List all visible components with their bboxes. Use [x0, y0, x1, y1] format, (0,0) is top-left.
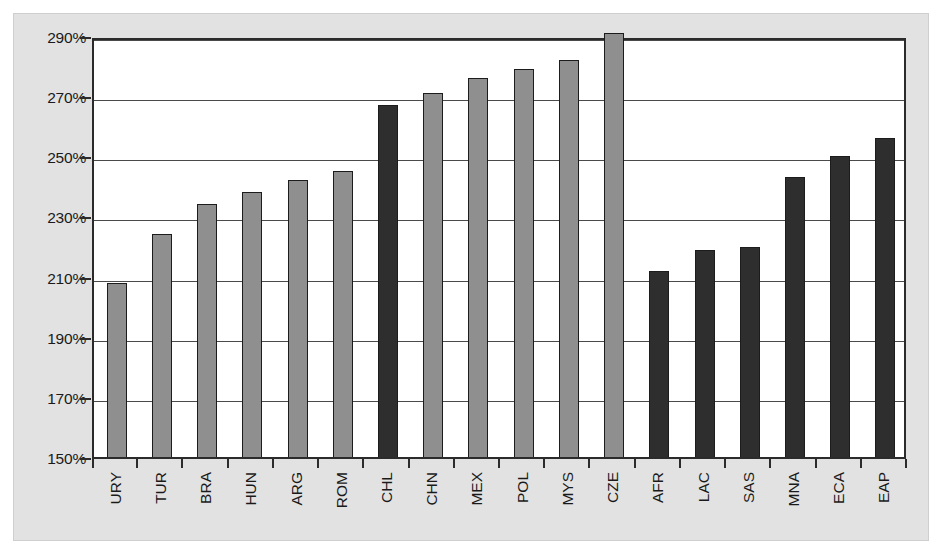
bar-arg: [288, 180, 308, 457]
bar-eap: [875, 138, 895, 457]
bar-mys: [559, 60, 579, 457]
bar-mex: [468, 78, 488, 457]
bar-bra: [197, 204, 217, 457]
y-tick-label: 150%: [24, 450, 86, 468]
y-tick-label: 170%: [24, 390, 86, 408]
bar-cze: [604, 33, 624, 457]
bar-eca: [830, 156, 850, 457]
x-tick-mark: [860, 459, 862, 468]
x-tick-mark: [453, 459, 455, 468]
bar-sas: [740, 247, 760, 458]
bar-chn: [423, 93, 443, 457]
y-tick-mark: [80, 398, 91, 400]
bar-ury: [107, 283, 127, 457]
x-tick-label: ROM: [333, 472, 351, 508]
x-tick-label: AFR: [649, 472, 667, 503]
x-tick-mark: [724, 459, 726, 468]
x-tick-label: ECA: [830, 472, 848, 504]
x-tick-mark: [181, 459, 183, 468]
x-tick-label: HUN: [242, 472, 260, 506]
x-tick-mark: [498, 459, 500, 468]
y-tick-mark: [80, 97, 91, 99]
x-tick-mark: [272, 459, 274, 468]
x-tick-mark: [136, 459, 138, 468]
x-tick-label: BRA: [197, 472, 215, 504]
bar-hun: [242, 192, 262, 457]
bar-tur: [152, 234, 172, 457]
bar-mna: [785, 177, 805, 457]
x-tick-label: MNA: [785, 472, 803, 506]
x-tick-mark: [634, 459, 636, 468]
y-tick-mark: [80, 157, 91, 159]
x-tick-mark: [905, 459, 907, 468]
y-tick-label: 290%: [24, 29, 86, 47]
bar-series: [94, 40, 904, 457]
x-tick-mark: [769, 459, 771, 468]
x-tick-label: URY: [107, 472, 125, 504]
x-tick-mark: [679, 459, 681, 468]
x-tick-mark: [317, 459, 319, 468]
y-tick-mark: [80, 278, 91, 280]
x-tick-label: CHN: [423, 472, 441, 506]
chart-figure: 150%170%190%210%230%250%270%290% URYTURB…: [13, 13, 929, 541]
bar-pol: [514, 69, 534, 457]
x-tick-label: MEX: [468, 472, 486, 506]
x-tick-label: CHL: [378, 472, 396, 503]
x-tick-label: POL: [514, 472, 532, 503]
y-tick-label: 230%: [24, 209, 86, 227]
x-tick-mark: [362, 459, 364, 468]
x-tick-label: MYS: [559, 472, 577, 506]
y-tick-mark: [80, 217, 91, 219]
bar-rom: [333, 171, 353, 457]
bar-afr: [649, 271, 669, 457]
x-tick-label: CZE: [604, 472, 622, 503]
y-tick-label: 190%: [24, 330, 86, 348]
x-tick-mark: [227, 459, 229, 468]
x-tick-mark: [408, 459, 410, 468]
x-axis: URYTURBRAHUNARGROMCHLCHNMEXPOLMYSCZEAFRL…: [92, 459, 906, 542]
x-tick-label: TUR: [152, 472, 170, 504]
y-tick-label: 270%: [24, 89, 86, 107]
x-tick-label: ARG: [288, 472, 306, 506]
y-tick-mark: [80, 37, 91, 39]
y-tick-mark: [80, 338, 91, 340]
x-tick-mark: [815, 459, 817, 468]
x-tick-mark: [543, 459, 545, 468]
y-tick-mark: [80, 458, 91, 460]
y-axis: 150%170%190%210%230%250%270%290%: [14, 38, 86, 459]
y-tick-label: 250%: [24, 149, 86, 167]
x-tick-label: EAP: [875, 472, 893, 503]
x-tick-label: LAC: [695, 472, 713, 502]
x-tick-label: SAS: [740, 472, 758, 503]
x-tick-mark: [92, 459, 94, 468]
bar-lac: [695, 250, 715, 457]
y-tick-label: 210%: [24, 270, 86, 288]
x-tick-mark: [588, 459, 590, 468]
plot-area: [92, 38, 906, 459]
bar-chl: [378, 105, 398, 457]
